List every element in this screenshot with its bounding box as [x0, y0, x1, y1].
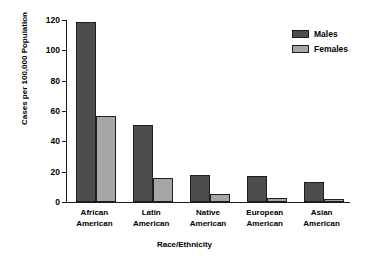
y-tick-label: 100	[46, 45, 60, 55]
y-tick-label: 40	[51, 136, 60, 146]
legend-item: Males	[292, 27, 348, 40]
bar-group	[133, 20, 173, 202]
y-tick-label: 20	[51, 167, 60, 177]
y-tick-label: 120	[46, 15, 60, 25]
x-tick-label-line: American	[123, 218, 180, 229]
bar-group	[247, 20, 287, 202]
y-tick-mark	[62, 111, 66, 112]
x-tick-label: NativeAmerican	[180, 207, 237, 229]
x-axis-line	[66, 202, 350, 203]
bar-group	[76, 20, 116, 202]
x-tick-label-line: Latin	[123, 207, 180, 218]
bar-group	[190, 20, 230, 202]
bar	[324, 199, 344, 202]
y-tick-mark	[62, 20, 66, 21]
chart-figure: Cases per 100,000 Population 02040608010…	[0, 0, 369, 256]
y-tick-mark	[62, 172, 66, 173]
legend: MalesFemales	[292, 27, 348, 57]
x-tick-label-line: Asian	[293, 207, 350, 218]
y-tick-label: 80	[51, 76, 60, 86]
bar	[133, 125, 153, 202]
x-tick-label-line: American	[293, 218, 350, 229]
bar	[304, 182, 324, 202]
bar	[96, 116, 116, 202]
x-tick-label-line: Native	[180, 207, 237, 218]
bar	[267, 198, 287, 202]
bar	[210, 194, 230, 202]
y-tick-mark	[62, 50, 66, 51]
x-tick-label: AsianAmerican	[293, 207, 350, 229]
y-tick-label: 60	[51, 106, 60, 116]
legend-label: Females	[314, 44, 348, 54]
bar	[190, 175, 210, 202]
x-tick-label-line: African	[66, 207, 123, 218]
x-axis-title: Race/Ethnicity	[0, 240, 369, 249]
y-tick-mark	[62, 141, 66, 142]
bar	[153, 178, 173, 202]
legend-label: Males	[314, 29, 338, 39]
x-tick-label: EuropeanAmerican	[236, 207, 293, 229]
x-tick-label-line: American	[180, 218, 237, 229]
legend-swatch	[292, 30, 309, 38]
y-tick-label: 0	[55, 197, 60, 207]
bar	[247, 176, 267, 202]
x-tick-label: LatinAmerican	[123, 207, 180, 229]
y-axis-title: Cases per 100,000 Population	[20, 0, 29, 159]
bar	[76, 22, 96, 202]
x-tick-label: AfricanAmerican	[66, 207, 123, 229]
x-tick-label-line: European	[236, 207, 293, 218]
x-tick-label-line: American	[66, 218, 123, 229]
y-tick-mark	[62, 81, 66, 82]
y-axis-line	[66, 20, 67, 203]
x-tick-label-line: American	[236, 218, 293, 229]
legend-swatch	[292, 45, 309, 53]
legend-item: Females	[292, 42, 348, 55]
y-tick-mark	[62, 202, 66, 203]
